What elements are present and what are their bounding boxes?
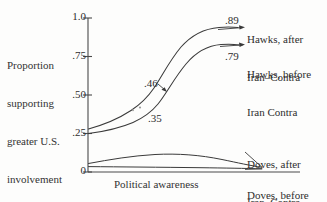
- chart-figure: Proportion supporting greater U.S. invol…: [0, 0, 327, 202]
- y-tick-label-.25: .25: [56, 126, 86, 138]
- y-tick-label-.75: .75: [56, 49, 86, 61]
- data-point-marker-after: [132, 109, 134, 111]
- data-point-marker-before: [139, 106, 141, 108]
- callout-arrowhead-hawks-after: [239, 25, 245, 29]
- series-label-hawks-before-line-2: Iran Contra: [247, 106, 311, 119]
- series-label-hawks-before-line-1: Hawks, before: [247, 68, 311, 81]
- series-label-doves-before-line-1: Doves, before: [247, 189, 309, 202]
- value-label-hawks-before: .79: [225, 50, 239, 62]
- x-axis-label: Political awareness: [114, 178, 199, 190]
- y-tick-label-1.0: 1.0: [56, 10, 86, 22]
- y-tick-label-.50: .50: [56, 88, 86, 100]
- series-label-hawks-before: Hawks, before Iran Contra: [247, 43, 311, 144]
- value-label-hawks-after: .89: [225, 14, 239, 26]
- value-label-mid-after: .46: [144, 77, 158, 89]
- series-line-hawks-after: [89, 27, 239, 129]
- callout-arrowhead-hawks-before: [239, 43, 245, 47]
- value-label-mid-before: .35: [148, 112, 162, 124]
- series-line-doves-before: [89, 167, 263, 169]
- y-tick-label-0: 0: [56, 164, 86, 176]
- series-line-doves-after: [89, 154, 263, 167]
- callout-arrow-hawks-after: [218, 28, 243, 30]
- series-label-doves-before: Doves, before Iran–Contra: [247, 164, 309, 202]
